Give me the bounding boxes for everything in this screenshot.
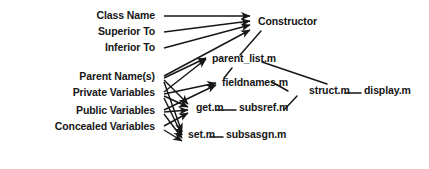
files-display_m: display.m bbox=[364, 85, 411, 96]
arrow-public_variables-to-get_m bbox=[164, 110, 188, 112]
inputs-concealed_variables: Concealed Variables bbox=[55, 121, 155, 132]
inputs-private_variables: Private Variables bbox=[73, 87, 155, 98]
inputs-inferior_to: Inferior To bbox=[105, 42, 155, 53]
files-fieldnames_m: fieldnames.m bbox=[222, 77, 288, 88]
arrow-superior_to-to-constructor bbox=[164, 21, 250, 32]
files-constructor: Constructor bbox=[258, 16, 317, 27]
files-set_m: set.m bbox=[188, 129, 215, 140]
files-subsref_m: subsref.m bbox=[239, 102, 288, 113]
inputs-class_name: Class Name bbox=[96, 10, 155, 21]
inputs-parent_names: Parent Name(s) bbox=[79, 71, 155, 82]
files-struct_m: struct.m bbox=[309, 85, 350, 96]
inputs-public_variables: Public Variables bbox=[76, 105, 155, 116]
files-subsasgn_m: subsasgn.m bbox=[226, 129, 286, 140]
diagram-canvas: Class NameSuperior ToInferior ToParent N… bbox=[0, 0, 429, 169]
inputs-superior_to: Superior To bbox=[98, 26, 155, 37]
files-get_m: get.m bbox=[196, 102, 224, 113]
files-parent_list_m: parent_list.m bbox=[212, 53, 276, 64]
